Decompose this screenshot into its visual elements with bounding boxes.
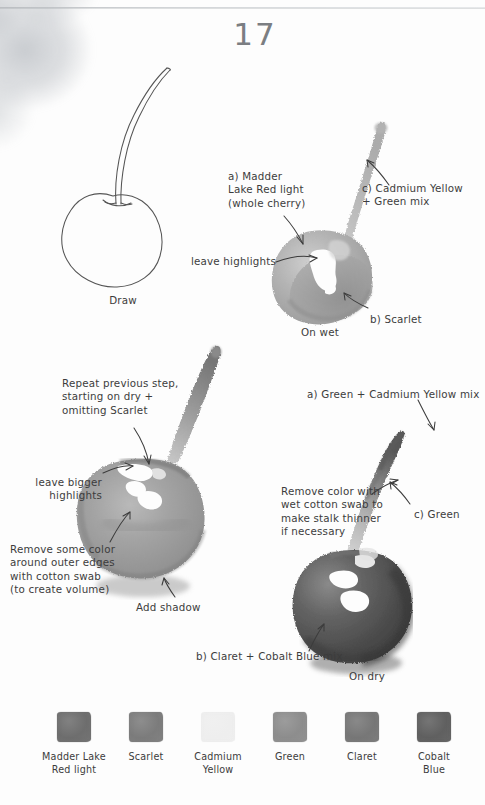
swatch-label-cadmium-yellow: Cadmium Yellow bbox=[182, 751, 254, 776]
top-scan-line-shadow bbox=[0, 8, 485, 9]
swatch-green: Green bbox=[254, 712, 326, 764]
caption-on-dry: On dry bbox=[332, 670, 402, 682]
watercolor-smudge-decoration bbox=[0, 0, 160, 190]
swatch-chip-scarlet bbox=[129, 712, 163, 742]
swatch-claret: Claret bbox=[326, 712, 398, 764]
swatch-chip-cadmium-yellow bbox=[201, 712, 235, 742]
swatch-chip-madder-lake-red-light bbox=[57, 712, 91, 742]
swatch-chip-claret bbox=[345, 712, 379, 742]
swatch-chip-cobalt-blue bbox=[417, 712, 451, 742]
palette-strip: Madder Lake Red light Scarlet Cadmium Ye… bbox=[0, 712, 485, 802]
scarlet-note: b) Scarlet bbox=[370, 313, 480, 326]
repeat-step-note: Repeat previous step, starting on dry + … bbox=[62, 377, 212, 417]
claret-cobalt-note: b) Claret + Cobalt Blue mix bbox=[196, 650, 356, 663]
green-cadmium-note: a) Green + Cadmium Yellow mix bbox=[307, 388, 485, 401]
madder-lake-note: a) Madder Lake Red light (whole cherry) bbox=[228, 170, 348, 210]
swatch-label-madder-lake-red-light: Madder Lake Red light bbox=[38, 751, 110, 776]
painting-on-dry bbox=[293, 431, 412, 674]
swatch-label-green: Green bbox=[254, 751, 326, 764]
swatch-cadmium-yellow: Cadmium Yellow bbox=[182, 712, 254, 776]
caption-on-wet: On wet bbox=[285, 326, 355, 338]
swatch-scarlet: Scarlet bbox=[110, 712, 182, 764]
cadmium-green-note: c) Cadmium Yellow + Green mix bbox=[362, 182, 485, 209]
swatch-chip-green bbox=[273, 712, 307, 742]
remove-color-edges-note: Remove some color around outer edges wit… bbox=[10, 543, 135, 597]
swatch-label-cobalt-blue: Cobalt Blue bbox=[398, 751, 470, 776]
swatch-label-claret: Claret bbox=[326, 751, 398, 764]
swatch-madder-lake-red-light: Madder Lake Red light bbox=[38, 712, 110, 776]
swatch-label-scarlet: Scarlet bbox=[110, 751, 182, 764]
tutorial-page: 17 bbox=[0, 0, 485, 805]
painting-on-wet bbox=[272, 122, 388, 324]
leave-highlights-note: leave highlights bbox=[176, 255, 276, 268]
add-shadow-note: Add shadow bbox=[136, 601, 231, 614]
swatch-cobalt-blue: Cobalt Blue bbox=[398, 712, 470, 776]
page-number: 17 bbox=[215, 16, 295, 52]
green-note: c) Green bbox=[414, 508, 484, 521]
remove-color-stalk-note: Remove color with wet cotton swab to mak… bbox=[281, 485, 399, 539]
leave-bigger-highlights-note: leave bigger highlights bbox=[6, 476, 102, 503]
caption-draw: Draw bbox=[78, 294, 168, 306]
sketch-cherry-outline bbox=[62, 68, 171, 287]
